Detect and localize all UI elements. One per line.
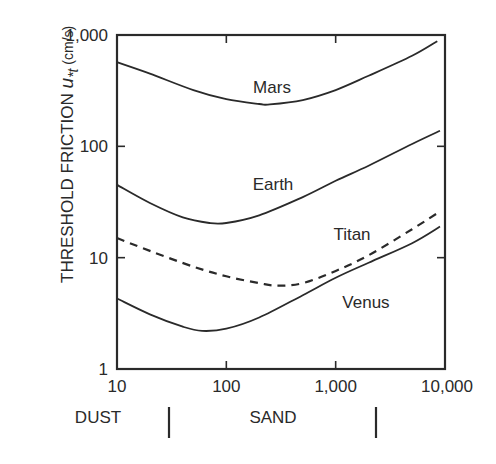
band-label-dust: DUST [75, 408, 121, 427]
x-tick-label: 1,000 [314, 377, 357, 396]
particle-size-bands: DUST SAND [75, 408, 297, 427]
x-tick-label: 10,000 [421, 377, 473, 396]
svg-text:THRESHOLD FRICTION u*t (cm/s): THRESHOLD FRICTION u*t (cm/s) [56, 26, 81, 283]
curve-label-mars: Mars [253, 78, 291, 97]
y-tick-label: 10 [89, 249, 108, 268]
chart-figure: 101001,00010,0001101001,000 MarsEarthTit… [0, 0, 496, 464]
curve-titan [117, 212, 440, 286]
y-tick-label: 100 [80, 137, 108, 156]
y-axis-label: THRESHOLD FRICTION u*t (cm/s) [56, 26, 81, 283]
y-axis-label-symbol: u [56, 77, 77, 88]
x-tick-label: 100 [212, 377, 240, 396]
y-axis-label-main: THRESHOLD FRICTION [58, 88, 77, 283]
band-label-sand: SAND [249, 408, 296, 427]
curve-label-titan: Titan [333, 225, 370, 244]
y-axis-label-unit: (cm/s) [60, 26, 76, 69]
curve-label-earth: Earth [253, 175, 294, 194]
x-tick-label: 10 [108, 377, 127, 396]
y-tick-label: 1 [99, 360, 108, 379]
curve-label-venus: Venus [342, 293, 389, 312]
curve-venus [117, 227, 440, 331]
